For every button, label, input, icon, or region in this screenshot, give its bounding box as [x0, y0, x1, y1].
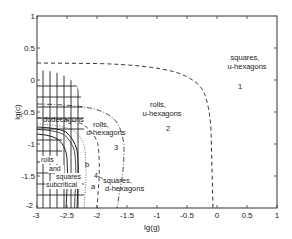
svg-text:and: and	[49, 165, 61, 172]
label-a: a	[91, 182, 96, 191]
svg-text:-2: -2	[26, 201, 34, 210]
svg-text:-0.5: -0.5	[21, 108, 35, 117]
svg-text:-1.5: -1.5	[21, 172, 35, 181]
region-1-label: squares, u-hexagons 1	[227, 53, 266, 91]
x-tick-labels: -3 -2.5 -2 -1.5 -1 -0.5 0 0.5 1	[32, 211, 279, 220]
svg-text:squares,: squares,	[231, 53, 260, 62]
svg-text:-1: -1	[28, 140, 36, 149]
svg-text:2: 2	[166, 124, 170, 133]
svg-text:u-hexagons: u-hexagons	[142, 109, 181, 118]
region-2-label: rolls, u-hexagons 2	[142, 100, 181, 133]
dodecagons-label: dodecagons	[43, 115, 84, 124]
svg-text:0: 0	[215, 211, 220, 220]
svg-text:subcritical: subcritical	[46, 181, 78, 188]
x-axis-label: lg(g)	[144, 223, 160, 232]
y-axis-label: lg(c)	[13, 104, 22, 120]
svg-text:d-hexagons: d-hexagons	[105, 184, 144, 193]
y-tick-labels: 1 0.5 0 -0.5 -1 -1.5 -2	[21, 12, 35, 210]
svg-text:-1: -1	[153, 211, 161, 220]
svg-text:0.5: 0.5	[241, 211, 253, 220]
svg-text:-2.5: -2.5	[60, 211, 74, 220]
svg-text:squares: squares	[56, 173, 81, 181]
svg-text:rolls: rolls	[41, 156, 54, 163]
svg-text:1: 1	[238, 82, 242, 91]
svg-text:1: 1	[275, 211, 280, 220]
region-4-label: 4 squares, d-hexagons	[94, 172, 144, 193]
phase-diagram-chart: -3 -2.5 -2 -1.5 -1 -0.5 0 0.5 1 1 0.5 0 …	[0, 0, 292, 239]
svg-text:-2: -2	[93, 211, 101, 220]
svg-text:u-hexagons: u-hexagons	[227, 62, 266, 71]
svg-text:d-hexagons: d-hexagons	[86, 128, 125, 137]
label-b: b	[85, 160, 89, 169]
svg-text:-0.5: -0.5	[180, 211, 194, 220]
svg-text:-3: -3	[32, 211, 40, 220]
svg-text:rolls,: rolls,	[150, 100, 166, 109]
svg-text:-1.5: -1.5	[120, 211, 134, 220]
svg-text:0: 0	[31, 76, 36, 85]
svg-text:1: 1	[31, 12, 36, 21]
region-3-label: rolls, d-hexagons 3	[86, 120, 125, 152]
svg-text:4: 4	[94, 172, 98, 179]
svg-text:0.5: 0.5	[24, 44, 36, 53]
svg-text:3: 3	[114, 143, 118, 152]
